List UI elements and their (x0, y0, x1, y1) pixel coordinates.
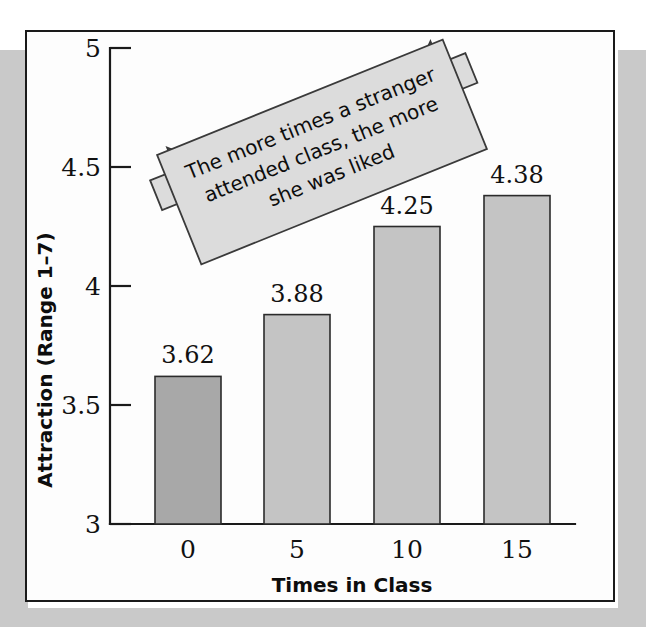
bar-value-label: 4.25 (380, 192, 433, 220)
y-tick-label: 3.5 (61, 391, 101, 420)
bar-rect[interactable] (484, 196, 550, 524)
y-tick-label: 3 (85, 510, 101, 539)
figure-page: Attraction (Range 1–7) 5 4.5 4 3.5 3 (0, 0, 646, 627)
y-tick-label: 4 (85, 272, 101, 301)
bar-rect[interactable] (374, 227, 440, 525)
y-tick-label: 5 (85, 34, 101, 63)
bar-rect[interactable] (155, 376, 221, 524)
bar-rect[interactable] (264, 315, 330, 524)
x-tick-label: 5 (289, 535, 305, 564)
x-axis-title: Times in Class (272, 573, 433, 597)
bar-value-label: 3.88 (270, 280, 323, 308)
bar-value-label: 4.38 (490, 161, 543, 189)
callout-annotation[interactable]: The more times a stranger attended class… (141, 31, 502, 271)
bar-chart: Attraction (Range 1–7) 5 4.5 4 3.5 3 (0, 0, 646, 627)
x-tick-label: 10 (391, 535, 423, 564)
y-axis-title: Attraction (Range 1–7) (33, 232, 57, 487)
x-axis-ticks: 0 5 10 15 (180, 535, 533, 564)
y-tick-label: 4.5 (61, 153, 101, 182)
y-axis-ticks: 5 4.5 4 3.5 3 (61, 34, 131, 539)
bar-value-label: 3.62 (161, 341, 214, 369)
x-tick-label: 15 (501, 535, 533, 564)
x-tick-label: 0 (180, 535, 196, 564)
